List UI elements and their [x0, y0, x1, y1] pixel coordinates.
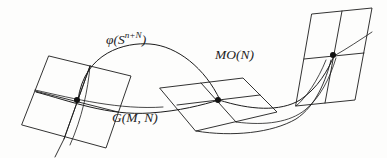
label-phi-sphere-prefix: φ(S [106, 32, 125, 47]
right-connecting-curve-upper [219, 56, 334, 108]
marked-point-middle [215, 97, 221, 103]
left-patch-through-curve [70, 66, 90, 145]
label-phi-sphere-superscript: n+N [125, 30, 142, 40]
diagram-canvas [0, 0, 387, 158]
figure-container: φ(Sn+N) G(M, N) MO(N) [0, 0, 387, 158]
label-phi-sphere-suffix: ) [142, 32, 147, 47]
label-thom-space: MO(N) [215, 48, 254, 62]
marked-point-right [330, 52, 336, 58]
label-grassmann: G(M, N) [112, 111, 158, 125]
grid-patch-middle [160, 78, 277, 131]
sphere-image-arc [78, 44, 220, 100]
right-patch-exit-curve [334, 32, 372, 56]
left-patch-tail-line [55, 66, 90, 157]
lower-connecting-curve-secondary [35, 90, 163, 108]
right-connecting-curve-middle [236, 58, 336, 124]
label-phi-sphere: φ(Sn+N) [106, 31, 146, 46]
right-connecting-curve-lower [196, 60, 331, 134]
marked-point-left [74, 97, 80, 103]
